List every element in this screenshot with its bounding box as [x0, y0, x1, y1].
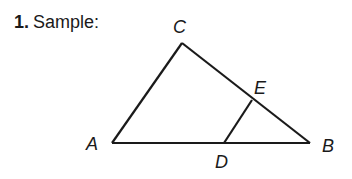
triangle-figure: C E A B D [0, 0, 352, 179]
vertex-label-a: A [85, 134, 98, 154]
vertex-label-b: B [322, 136, 334, 156]
segment-de [224, 100, 252, 143]
segment-ca [112, 43, 182, 143]
segment-bc [182, 43, 310, 143]
vertex-label-c: C [173, 17, 187, 37]
vertex-label-e: E [254, 78, 267, 98]
vertex-label-d: D [215, 152, 228, 172]
